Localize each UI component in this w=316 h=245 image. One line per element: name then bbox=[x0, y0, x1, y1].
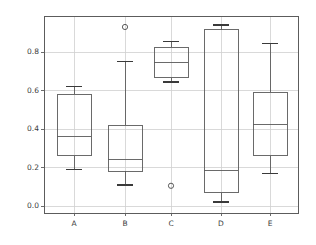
xtick-label-c: C bbox=[156, 219, 186, 228]
ytick-label: 0.2 bbox=[27, 163, 39, 172]
box-plot-canvas bbox=[0, 0, 316, 245]
ytick-label: 0.0 bbox=[27, 201, 39, 210]
box-plot-figure: 0.00.20.40.60.8ABCDE bbox=[0, 0, 316, 245]
ytick-label: 0.8 bbox=[27, 47, 39, 56]
xtick-label-a: A bbox=[59, 219, 89, 228]
ytick-label: 0.4 bbox=[27, 124, 39, 133]
xtick-label-b: B bbox=[110, 219, 140, 228]
xtick-label-e: E bbox=[255, 219, 285, 228]
ytick-label: 0.6 bbox=[27, 86, 39, 95]
xtick-label-d: D bbox=[206, 219, 236, 228]
